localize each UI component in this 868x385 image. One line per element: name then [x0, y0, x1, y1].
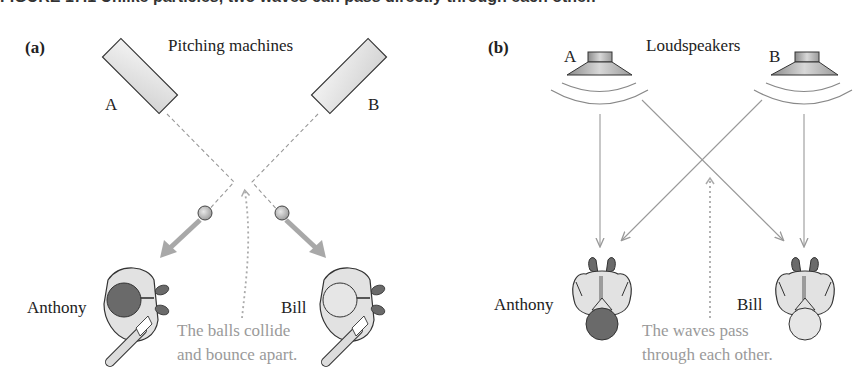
panel-a-label: (a)	[25, 38, 45, 57]
note-b-line1: The waves pass	[642, 321, 749, 340]
bill-figure-b	[776, 258, 835, 340]
note-a-line2: and bounce apart.	[177, 345, 297, 364]
machine-b-label: B	[368, 95, 379, 114]
bill-figure-a	[320, 268, 386, 362]
speaker-a-label: A	[564, 47, 577, 66]
ball-a	[198, 206, 212, 220]
diagram: (a) Pitching machines A B	[0, 0, 868, 385]
panel-b-label: (b)	[488, 38, 509, 57]
bill-label-a: Bill	[281, 298, 307, 317]
anthony-figure-b	[573, 258, 632, 340]
anthony-figure-a	[104, 268, 170, 362]
speaker-b-label: B	[769, 47, 780, 66]
wave-b-to-anthony	[622, 100, 762, 240]
bill-label-b: Bill	[737, 295, 763, 314]
anthony-label-b: Anthony	[494, 295, 554, 314]
note-a-line1: The balls collide	[177, 321, 290, 340]
panel-b: (b) Loudspeakers A B	[488, 36, 852, 364]
panel-a-title: Pitching machines	[168, 36, 293, 55]
collision-pointer	[242, 192, 248, 318]
wave-a-to-bill	[642, 100, 783, 240]
anthony-label-a: Anthony	[27, 298, 87, 317]
machine-a-label: A	[105, 95, 118, 114]
trajectory-b	[252, 114, 318, 213]
note-b-line2: through each other.	[642, 345, 773, 364]
panel-a: (a) Pitching machines A B	[25, 36, 386, 364]
ball-a-bounce-arrow	[160, 220, 200, 258]
panel-b-title: Loudspeakers	[646, 36, 740, 55]
ball-b-bounce-arrow	[286, 220, 326, 258]
ball-b	[275, 206, 289, 220]
trajectory-a	[167, 114, 234, 213]
